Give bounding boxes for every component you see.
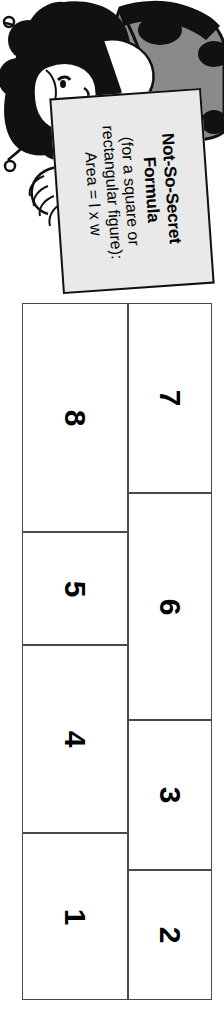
grid-cell-number: 8 [60,409,90,426]
grid-cell-number: 1 [60,908,90,925]
numbered-rectangles-grid: 85417632 [22,303,212,1000]
grid-cell-3[interactable]: 3 [128,720,212,870]
grid-cell-number: 2 [155,927,185,944]
grid-cell-8[interactable]: 8 [22,303,128,532]
grid-cell-number: 7 [155,390,185,407]
grid-cell-number: 3 [155,787,185,804]
grid-cell-7[interactable]: 7 [128,303,212,493]
sign-board: Not-So-Secret Formula (for a square or r… [49,88,214,294]
grid-cell-1[interactable]: 1 [22,833,128,1000]
grid-cell-4[interactable]: 4 [22,645,128,833]
grid-cell-number: 4 [60,731,90,748]
sign-text-block: Not-So-Secret Formula (for a square or r… [55,93,210,288]
not-so-secret-formula-sign: Not-So-Secret Formula (for a square or r… [56,93,208,289]
grid-cell-number: 5 [60,580,90,597]
sign-line-1: Not-So-Secret [157,132,184,244]
grid-cell-2[interactable]: 2 [128,870,212,1000]
worksheet-page: Not-So-Secret Formula (for a square or r… [0,0,224,1015]
grid-cell-6[interactable]: 6 [128,493,212,720]
grid-cell-number: 6 [155,598,185,615]
grid-cell-5[interactable]: 5 [22,532,128,645]
